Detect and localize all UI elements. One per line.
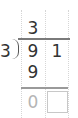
- remainder-digit-1: 0: [21, 92, 45, 112]
- subtract-digit-1: 9: [21, 62, 45, 82]
- divisor: 3: [0, 41, 11, 61]
- division-bar: [18, 38, 70, 40]
- dividend-digit-1: 9: [21, 41, 45, 61]
- subtraction-bar: [21, 87, 68, 89]
- division-bracket: [12, 39, 19, 59]
- quotient-digit-1: 3: [21, 18, 45, 38]
- grid-line-middle: [45, 10, 46, 118]
- answer-input-box[interactable]: [47, 91, 68, 113]
- grid-line-right: [68, 10, 69, 118]
- dividend-digit-2: 1: [45, 41, 69, 61]
